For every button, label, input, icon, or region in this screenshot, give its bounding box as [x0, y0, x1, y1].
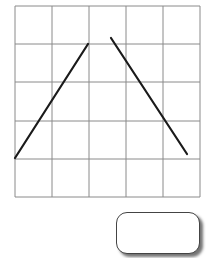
grid-lines	[15, 6, 200, 197]
line-segments	[15, 38, 187, 158]
right-segment	[111, 38, 187, 154]
answer-box[interactable]	[116, 212, 200, 254]
